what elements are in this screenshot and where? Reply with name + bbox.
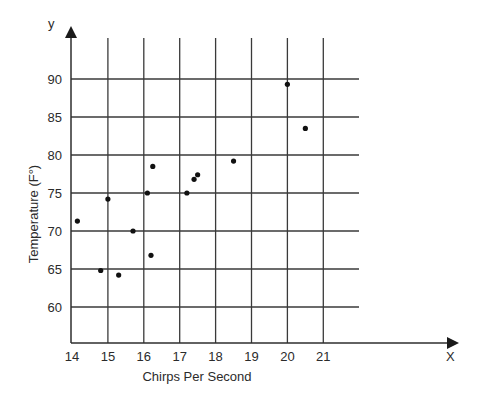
x-axis-arrow-icon [447,337,459,349]
x-tick-20: 20 [280,349,294,364]
data-point [98,268,103,273]
data-point [105,196,110,201]
data-point [195,172,200,177]
x-tick-19: 19 [244,349,258,364]
data-point [75,219,80,224]
data-point [130,228,135,233]
x-tick-18: 18 [208,349,222,364]
y-tick-75: 75 [48,186,62,201]
data-point [116,272,121,277]
y-tick-70: 70 [48,224,62,239]
vertical-gridlines [108,38,323,343]
data-point [191,177,196,182]
y-tick-60: 60 [48,300,62,315]
data-points [75,82,308,278]
data-point [285,82,290,87]
y-tick-labels: 60657075808590 [48,72,62,315]
x-tick-15: 15 [101,349,115,364]
x-tick-14: 14 [65,349,79,364]
y-tick-85: 85 [48,110,62,125]
data-point [148,253,153,258]
y-tick-90: 90 [48,72,62,87]
x-tick-labels: 1415161718192021 [65,349,331,364]
scatter-chart: 1415161718192021 60657075808590 y X Chir… [0,0,482,401]
y-tick-65: 65 [48,262,62,277]
y-axis-title: Temperature (F°) [26,165,41,263]
data-point [231,158,236,163]
x-axis-letter: X [446,349,455,364]
y-axis-arrow-icon [65,26,77,38]
data-point [303,126,308,131]
x-axis-title: Chirps Per Second [142,369,251,384]
data-point [150,164,155,169]
x-tick-21: 21 [316,349,330,364]
data-point [184,190,189,195]
x-tick-17: 17 [172,349,186,364]
y-axis-letter: y [48,16,55,31]
y-tick-80: 80 [48,148,62,163]
data-point [145,190,150,195]
x-tick-16: 16 [137,349,151,364]
